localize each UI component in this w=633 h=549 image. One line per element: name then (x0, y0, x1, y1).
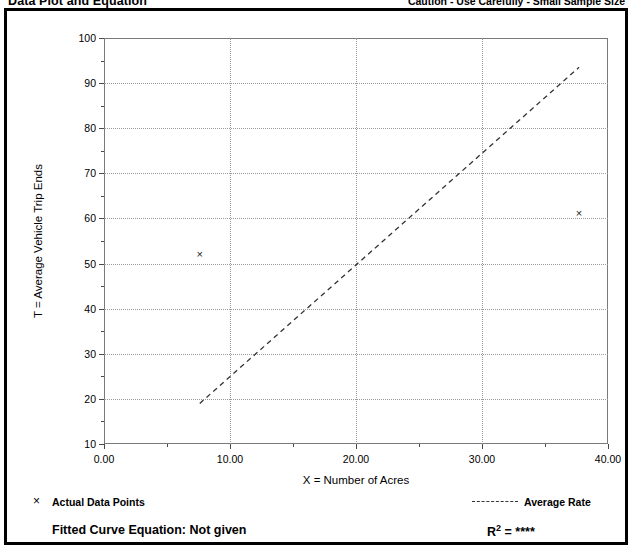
x-axis-tick-label: 30.00 (469, 453, 495, 465)
x-axis-minor-tick (419, 444, 420, 447)
y-axis-tick-label: 80 (62, 122, 96, 134)
x-axis-minor-tick (293, 444, 294, 447)
y-axis-tick-label: 40 (62, 303, 96, 315)
caution-note: Caution - Use Carefully - Small Sample S… (408, 0, 625, 7)
y-axis-tick-label: 20 (62, 393, 96, 405)
x-axis-tick-label: 20.00 (343, 453, 369, 465)
y-axis-tick-label: 50 (62, 258, 96, 270)
legend-label-average-rate: Average Rate (524, 494, 591, 510)
y-axis-tick-label: 60 (62, 212, 96, 224)
y-axis-tick-label: 100 (62, 32, 96, 44)
r-squared-number: = **** (505, 525, 535, 539)
r-squared-base: R (487, 525, 496, 539)
x-axis-tick (608, 444, 609, 449)
page-title: Data Plot and Equation (8, 0, 147, 8)
data-point-marker: × (574, 208, 585, 219)
y-axis-title: T = Average Vehicle Trip Ends (30, 38, 46, 444)
x-axis-tick (104, 444, 105, 449)
x-axis-tick-label: 0.00 (94, 453, 114, 465)
y-axis-tick-label: 30 (62, 348, 96, 360)
y-axis-tick-label: 90 (62, 77, 96, 89)
legend: × Actual Data Points Average Rate (0, 493, 633, 511)
average-rate-line-icon (472, 501, 518, 502)
y-axis-tick-label: 70 (62, 167, 96, 179)
x-axis-tick-label: 40.00 (595, 453, 621, 465)
average-rate-line (104, 38, 608, 444)
r-squared-value: R2 = **** (487, 523, 535, 539)
plot-area: 1020304050607080901000.0010.0020.0030.00… (104, 38, 608, 444)
x-axis-tick (356, 444, 357, 449)
y-axis-tick-label: 10 (62, 438, 96, 450)
x-axis-tick-label: 10.00 (217, 453, 243, 465)
x-axis-tick (230, 444, 231, 449)
x-axis-minor-tick (545, 444, 546, 447)
fitted-curve-equation: Fitted Curve Equation: Not given (52, 523, 246, 537)
data-point-marker-icon: × (33, 493, 40, 509)
r-squared-exponent: 2 (496, 523, 501, 533)
data-point-marker: × (194, 249, 205, 260)
equation-row: Fitted Curve Equation: Not given R2 = **… (0, 523, 633, 543)
x-axis-title: X = Number of Acres (104, 474, 608, 486)
x-axis-tick (482, 444, 483, 449)
x-axis-minor-tick (167, 444, 168, 447)
legend-label-actual-data-points: Actual Data Points (52, 494, 145, 510)
